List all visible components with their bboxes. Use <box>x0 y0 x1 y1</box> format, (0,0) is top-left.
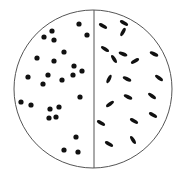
bacillus-rod <box>98 22 108 30</box>
cell-morphology-diagram <box>0 0 183 179</box>
bacillus-rod <box>110 54 118 64</box>
bacillus-rod <box>122 75 132 82</box>
coccus-dot <box>41 34 46 39</box>
coccus-dot <box>76 21 81 26</box>
coccus-dot <box>49 28 54 33</box>
coccus-dot <box>47 106 52 111</box>
bacillus-rod <box>96 119 106 127</box>
bacillus-rod <box>148 111 158 119</box>
bacillus-rod <box>104 140 114 148</box>
bacillus-rod <box>119 19 129 27</box>
coccus-dot <box>77 94 82 99</box>
field-circle <box>14 10 172 168</box>
coccus-dot <box>46 115 51 120</box>
coccus-dot <box>59 77 64 82</box>
bacillus-rod <box>119 27 126 37</box>
coccus-dot <box>25 74 30 79</box>
coccus-dot <box>53 114 58 119</box>
coccus-dot <box>18 99 23 104</box>
coccus-dot <box>45 72 50 77</box>
coccus-dot <box>56 104 61 109</box>
bacillus-rod <box>100 45 110 53</box>
bacillus-rod <box>147 92 157 100</box>
coccus-dot <box>34 55 39 60</box>
bacillus-rod <box>123 93 133 100</box>
coccus-dot <box>75 149 80 154</box>
coccus-dot <box>61 49 66 54</box>
bacillus-rod <box>105 74 112 84</box>
coccus-dot <box>84 32 89 37</box>
coccus-dot <box>71 63 76 68</box>
coccus-dot <box>28 102 33 107</box>
bacillus-rod <box>129 135 137 145</box>
coccus-dot <box>51 37 56 42</box>
coccus-dot <box>61 147 66 152</box>
bacillus-rod <box>105 100 115 108</box>
bacillus-rod <box>129 117 139 125</box>
coccus-dot <box>79 68 84 73</box>
bacillus-rod <box>149 50 159 57</box>
bacillus-rod <box>154 74 164 82</box>
coccus-dot <box>73 134 78 139</box>
coccus-dot <box>40 81 45 86</box>
bacillus-rod <box>130 57 140 65</box>
coccus-dot <box>70 72 75 77</box>
bacillus-rod <box>118 51 128 58</box>
coccus-dot <box>51 58 56 63</box>
